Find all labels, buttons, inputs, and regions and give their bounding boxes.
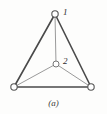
inner-spoke-edges: [14, 14, 91, 87]
node-2: [53, 61, 59, 67]
node-2-label: 2: [63, 57, 68, 66]
graph-diagram: [0, 0, 107, 114]
figure-caption: (a): [0, 99, 107, 108]
outer-triangle-edges: [14, 14, 91, 87]
edge-node1-to-bottomright: [55, 14, 91, 87]
node-bottom-right: [88, 84, 94, 90]
node-1-label: 1: [63, 8, 68, 17]
graph-nodes: [11, 11, 94, 90]
edge-node2-to-node1: [55, 14, 56, 64]
node-bottom-left: [11, 84, 17, 90]
node-1: [52, 11, 58, 17]
figure-panel: 1 2 (a): [0, 0, 107, 114]
